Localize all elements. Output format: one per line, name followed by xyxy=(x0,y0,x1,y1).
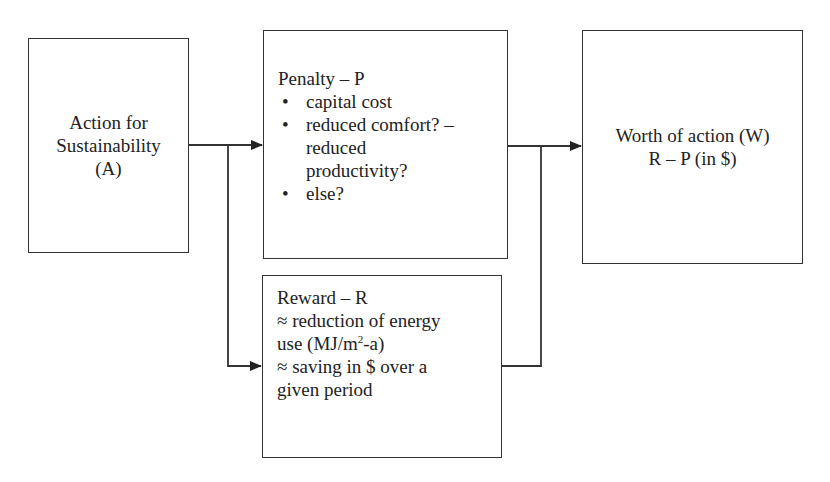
reward-line-4: given period xyxy=(277,378,501,401)
penalty-item-capital-cost: capital cost xyxy=(278,90,507,113)
penalty-item-continued-1: reduced xyxy=(278,136,507,159)
action-line-1: Action for xyxy=(69,111,148,134)
action-line-2: Sustainability xyxy=(56,134,161,157)
penalty-title: Penalty – P xyxy=(278,67,507,90)
node-action: Action for Sustainability (A) xyxy=(28,38,189,253)
node-reward: Reward – R ≈ reduction of energy use (MJ… xyxy=(262,275,502,458)
edge-action-to-reward xyxy=(228,145,261,366)
worth-line-1: Worth of action (W) xyxy=(615,124,769,147)
penalty-list: capital cost reduced comfort? – reduced … xyxy=(278,90,507,205)
penalty-item-else: else? xyxy=(278,182,507,205)
worth-line-2: R – P (in $) xyxy=(649,147,737,170)
reward-title: Reward – R xyxy=(277,286,501,309)
action-line-3: (A) xyxy=(95,157,121,180)
penalty-item-continued-2: productivity? xyxy=(278,159,507,182)
reward-line-2: use (MJ/m2-a) xyxy=(277,332,501,355)
node-penalty: Penalty – P capital cost reduced comfort… xyxy=(263,30,508,259)
penalty-item-reduced-comfort: reduced comfort? – xyxy=(278,113,507,136)
node-worth: Worth of action (W) R – P (in $) xyxy=(582,30,803,264)
reward-line-1: ≈ reduction of energy xyxy=(277,309,501,332)
reward-line-3: ≈ saving in $ over a xyxy=(277,355,501,378)
